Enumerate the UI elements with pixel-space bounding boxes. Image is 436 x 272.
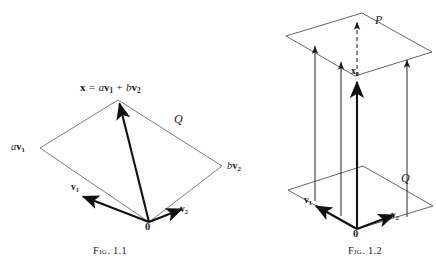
fig1-vector-x-arrow (120, 104, 150, 223)
fig1-label-bv2: bv2 (227, 161, 241, 173)
fig1-label-av1-sub: 1 (22, 146, 25, 153)
fig1-label-v2: v2 (180, 205, 188, 215)
fig2-caption-number: 1.2 (368, 245, 382, 256)
fig2-vector-v1-arrow (316, 206, 357, 229)
fig2-label-x0-sub: 0 (356, 70, 359, 77)
fig1-equation-equals: = (88, 81, 95, 93)
fig1-caption-number: 1.1 (113, 245, 127, 256)
fig1-parallelogram (40, 100, 222, 222)
fig2-label-v1-sub: 1 (309, 199, 312, 206)
fig2-label-plane-P: P (375, 14, 382, 26)
fig2-vector-v2-arrow (357, 215, 394, 229)
fig1-equation: x = av1 + bv2 (80, 82, 141, 95)
fig2-label-origin: 0 (353, 229, 358, 240)
figure-page: x = av1 + bv2 av1 bv2 v1 v2 0 Q Fig. 1.1… (0, 0, 436, 272)
fig1-label-plane-Q: Q (174, 113, 183, 125)
fig1-vector-v2-arrow (149, 209, 182, 222)
fig1-label-v1-sub: 1 (76, 186, 79, 193)
fig1-caption: Fig. 1.1 (93, 246, 127, 257)
fig2-label-plane-Q: Q (401, 172, 410, 184)
fig1-label-v1: v1 (71, 183, 79, 193)
fig1-vector-v1-arrow (83, 197, 149, 223)
fig2-caption-prefix: Fig. (348, 245, 365, 256)
fig2-label-v1: v1 (304, 196, 312, 206)
fig2-label-v2: v2 (391, 211, 399, 221)
fig2-label-v2-sub: 2 (396, 214, 399, 221)
fig1-label-av1: av1 (11, 142, 25, 154)
fig2-caption: Fig. 1.2 (348, 246, 382, 257)
fig1-caption-prefix: Fig. (93, 245, 110, 256)
fig1-label-bv2-sub: 2 (238, 165, 241, 172)
fig2-label-x0: x0 (351, 67, 359, 77)
fig1-equation-term2-sub: 2 (137, 87, 141, 95)
fig2-top-plane-P (286, 13, 432, 76)
fig1-label-v2-sub: 2 (185, 208, 188, 215)
fig1-label-origin: 0 (145, 222, 150, 233)
figure-vector-graphics (0, 0, 436, 272)
